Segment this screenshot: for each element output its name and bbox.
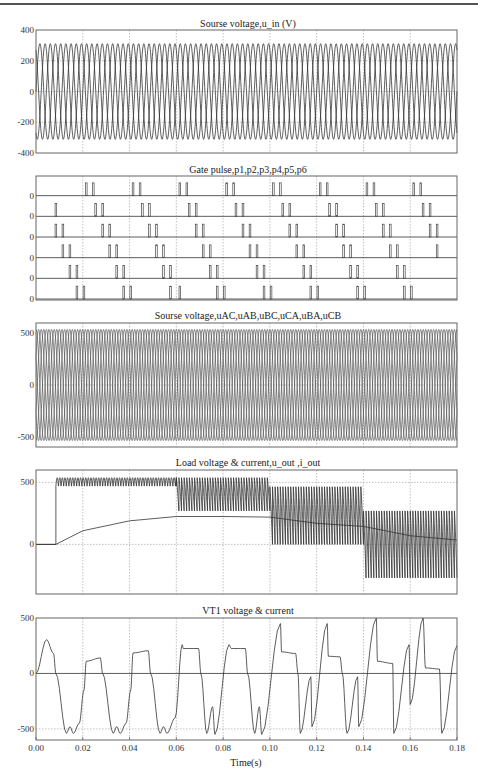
y-tick-label: 0	[30, 87, 35, 97]
gate-pulse	[376, 204, 378, 217]
gate-pulse	[62, 245, 64, 258]
gate-pulse	[397, 245, 399, 258]
load-voltage-current-panel: Load voltage & current,u_out ,i_out 5000	[21, 457, 458, 594]
gate-pulse	[156, 245, 158, 258]
y-tick-label: 0	[30, 211, 35, 221]
y-tick-label: 0	[30, 294, 35, 304]
x-tick-label: 0.14	[356, 743, 372, 753]
gate-pulse	[102, 224, 104, 237]
gate-pulse	[179, 286, 181, 299]
gate-pulse	[319, 183, 321, 196]
gate-pulse	[179, 183, 181, 196]
gate-pulse	[429, 224, 431, 237]
gate-pulse-panel: Gate pulse,p1,p2,p3,p4,p5,p6 000000	[30, 164, 458, 304]
x-tick-label: 0.16	[402, 743, 418, 753]
gate-pulse	[357, 286, 359, 299]
gate-pulse	[202, 245, 204, 258]
gate-pulse	[390, 245, 392, 258]
gate-pulse	[242, 224, 244, 237]
gate-pulse	[235, 204, 237, 217]
gate-pulse	[296, 224, 298, 237]
gate-pulse	[170, 286, 172, 299]
x-tick-label: 0.18	[449, 743, 465, 753]
y-tick-label: 0	[30, 668, 35, 678]
gate-pulse	[216, 286, 218, 299]
gate-pulse	[256, 245, 258, 258]
gate-pulse	[249, 245, 251, 258]
gate-pulse	[397, 266, 399, 279]
gate-pulse	[317, 286, 319, 299]
gate-pulse	[256, 266, 258, 279]
gate-pulse	[223, 286, 225, 299]
gate-pulse	[350, 266, 352, 279]
gate-pulse	[280, 183, 282, 196]
y-tick-label: 400	[21, 25, 35, 35]
y-tick-label: 0	[30, 380, 35, 390]
gate-pulse	[156, 224, 158, 237]
gate-pulse	[116, 245, 118, 258]
y-tick-label: -400	[18, 148, 35, 158]
gate-pulse	[289, 224, 291, 237]
gate-pulse	[123, 286, 125, 299]
y-tick-label: 0	[30, 191, 35, 201]
gate-pulse	[350, 245, 352, 258]
gate-pulse	[373, 183, 375, 196]
gate-pulse	[273, 183, 275, 196]
gate-pulse	[336, 204, 338, 217]
gate-pulse	[296, 245, 298, 258]
gate-pulse	[343, 224, 345, 237]
y-tick-label: 500	[21, 477, 35, 487]
y-tick-label: -500	[18, 432, 35, 442]
vt1-voltage-current-panel: VT1 voltage & current Time(s) 5000-5000.…	[18, 605, 466, 769]
gate-pulse	[216, 266, 218, 279]
gate-pulse	[93, 183, 95, 196]
gate-pulse	[188, 204, 190, 217]
gate-pulse	[422, 204, 424, 217]
gate-pulse	[270, 286, 272, 299]
gate-pulse	[85, 183, 87, 196]
gate-pulse-title: Gate pulse,p1,p2,p3,p4,p5,p6	[189, 164, 307, 175]
gate-pulse	[55, 204, 57, 217]
x-tick-label: 0.08	[215, 743, 231, 753]
y-tick-label: -500	[18, 724, 35, 734]
y-tick-label: 200	[21, 56, 35, 66]
gate-pulse	[429, 204, 431, 217]
gate-pulse	[336, 224, 338, 237]
gate-pulse	[123, 266, 125, 279]
figure: Sourse voltage,u_in (V) 4002000-200-400 …	[0, 0, 478, 776]
gate-pulse	[326, 183, 328, 196]
gate-pulse	[282, 204, 284, 217]
gate-pulse	[83, 286, 85, 299]
x-tick-label: 0.02	[75, 743, 91, 753]
x-tick-label: 0.10	[262, 743, 278, 753]
y-tick-label: 0	[30, 253, 35, 263]
gate-pulse	[55, 224, 57, 237]
gate-pulse	[413, 183, 415, 196]
gate-pulse	[303, 245, 305, 258]
gate-pulse	[149, 204, 151, 217]
source-voltage-panel: Sourse voltage,u_in (V) 4002000-200-400	[18, 18, 458, 158]
y-tick-label: 0	[30, 539, 35, 549]
gate-pulse	[249, 224, 251, 237]
y-tick-label: 0	[30, 273, 35, 283]
gate-pulse	[436, 224, 438, 237]
gate-pulse	[76, 286, 78, 299]
gate-pulse	[263, 266, 265, 279]
gate-pulse	[102, 204, 104, 217]
y-tick-label: 500	[21, 613, 35, 623]
x-tick-label: 0.06	[168, 743, 184, 753]
gate-pulse	[436, 245, 438, 258]
gate-pulse	[263, 286, 265, 299]
gate-pulse	[329, 204, 331, 217]
gate-pulse	[139, 183, 141, 196]
vt1-voltage-trace	[36, 618, 457, 734]
gate-pulse	[130, 286, 132, 299]
gate-pulse	[163, 266, 165, 279]
gate-pulse	[404, 266, 406, 279]
gate-pulse	[404, 286, 406, 299]
gate-pulse	[343, 245, 345, 258]
gate-pulse	[170, 266, 172, 279]
gate-pulse	[95, 204, 97, 217]
gate-pulse	[411, 286, 413, 299]
gate-pulse	[209, 245, 211, 258]
